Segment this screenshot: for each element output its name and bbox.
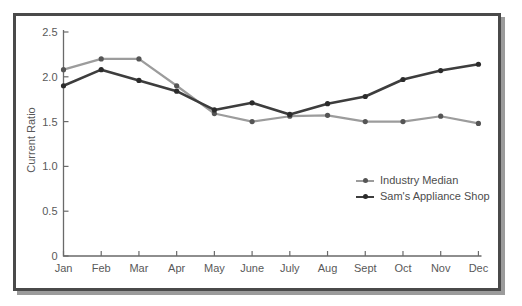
data-point-marker — [400, 119, 405, 124]
x-tick-label: June — [240, 262, 264, 274]
series-industry-median — [61, 56, 481, 126]
data-point-marker — [400, 77, 405, 82]
x-tick-label: Sept — [354, 262, 377, 274]
data-point-marker — [61, 83, 66, 88]
legend-label: Industry Median — [380, 174, 458, 187]
y-axis: 00.51.01.52.02.5 — [42, 26, 68, 262]
data-point-marker — [174, 83, 179, 88]
line-chart: 00.51.01.52.02.5JanFebMarAprMayJuneJulyA… — [0, 0, 522, 306]
x-tick-label: May — [204, 262, 225, 274]
axes-lines — [64, 30, 482, 256]
chart-canvas: 00.51.01.52.02.5JanFebMarAprMayJuneJulyA… — [0, 0, 522, 306]
y-axis-title: Current Ratio — [25, 107, 37, 172]
y-tick-label: 0.5 — [42, 205, 57, 217]
legend: Industry Median Sam's Appliance Shop — [356, 174, 490, 203]
y-tick-label: 1.5 — [42, 116, 57, 128]
data-point-marker — [438, 68, 443, 73]
series-line — [64, 59, 479, 124]
data-point-marker — [287, 112, 292, 117]
data-point-marker — [363, 119, 368, 124]
y-tick-label: 2.0 — [42, 71, 57, 83]
data-point-marker — [99, 67, 104, 72]
series-sam-s-appliance-shop — [61, 62, 481, 117]
data-point-marker — [325, 101, 330, 106]
x-tick-label: Aug — [318, 262, 338, 274]
sams-appliance-shop-line-marker-icon — [356, 192, 374, 201]
y-tick-label: 1.0 — [42, 160, 57, 172]
data-point-marker — [250, 100, 255, 105]
y-tick-label: 2.5 — [42, 26, 57, 38]
x-tick-label: Dec — [469, 262, 489, 274]
industry-median-line-marker-icon — [356, 176, 374, 185]
data-point-marker — [325, 113, 330, 118]
x-tick-label: Feb — [92, 262, 111, 274]
x-tick-label: Oct — [394, 262, 411, 274]
x-tick-label: Apr — [168, 262, 185, 274]
legend-label: Sam's Appliance Shop — [380, 190, 490, 203]
legend-item-industry-median: Industry Median — [356, 174, 490, 187]
data-point-marker — [476, 121, 481, 126]
data-point-marker — [99, 56, 104, 61]
x-tick-label: Jan — [55, 262, 73, 274]
x-tick-label: Mar — [129, 262, 148, 274]
x-axis: JanFebMarAprMayJuneJulyAugSeptOctNovDec — [55, 251, 489, 274]
x-tick-label: Nov — [431, 262, 451, 274]
series-line — [64, 64, 479, 114]
x-tick-label: July — [280, 262, 300, 274]
legend-item-sams-appliance-shop: Sam's Appliance Shop — [356, 190, 490, 203]
data-point-marker — [136, 78, 141, 83]
data-point-marker — [136, 56, 141, 61]
y-tick-label: 0 — [51, 250, 57, 262]
data-point-marker — [174, 89, 179, 94]
data-point-marker — [438, 114, 443, 119]
data-point-marker — [250, 119, 255, 124]
data-point-marker — [212, 107, 217, 112]
data-point-marker — [363, 94, 368, 99]
data-point-marker — [476, 62, 481, 67]
data-point-marker — [61, 67, 66, 72]
